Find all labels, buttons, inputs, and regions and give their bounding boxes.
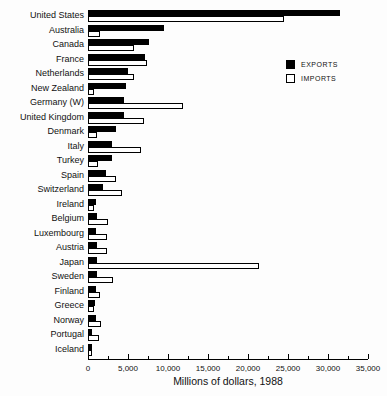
bar-row: Belgium [0, 213, 387, 228]
bar-row: Spain [0, 170, 387, 185]
x-axis-major-tick [208, 354, 209, 359]
imports-bar [88, 118, 144, 124]
category-label: Italy [0, 140, 84, 152]
imports-bar [88, 219, 108, 225]
category-label: Germany (W) [0, 96, 84, 108]
bar-row: Sweden [0, 271, 387, 286]
category-label: Denmark [0, 125, 84, 137]
x-axis-tick-label: 15,000 [188, 364, 228, 373]
imports-bar [88, 176, 116, 182]
x-axis-major-tick [368, 354, 369, 359]
category-label: Switzerland [0, 183, 84, 195]
bar-row: Denmark [0, 126, 387, 141]
legend-label-imports: IMPORTS [301, 75, 336, 83]
category-label: Japan [0, 256, 84, 268]
x-axis-minor-tick [108, 356, 109, 359]
x-axis-tick-label: 35,000 [348, 364, 387, 373]
bar-chart: United StatesAustraliaCanadaFranceNether… [0, 0, 387, 396]
imports-bar [88, 292, 100, 298]
category-label: Netherlands [0, 67, 84, 79]
category-label: Sweden [0, 270, 84, 282]
legend-label-exports: EXPORTS [301, 61, 338, 69]
imports-bar [88, 103, 183, 109]
x-axis-major-tick [128, 354, 129, 359]
imports-bar [88, 161, 98, 167]
imports-bar [88, 277, 113, 283]
imports-bar [88, 16, 284, 22]
x-axis-minor-tick [348, 356, 349, 359]
x-axis-tick-label: 10,000 [148, 364, 188, 373]
category-label: Canada [0, 38, 84, 50]
imports-bar [88, 147, 141, 153]
x-axis-major-tick [288, 354, 289, 359]
imports-bar [88, 132, 97, 138]
x-axis-tick-label: 25,000 [268, 364, 308, 373]
bar-row: Greece [0, 300, 387, 315]
bar-row: Finland [0, 286, 387, 301]
imports-bar [88, 74, 134, 80]
bar-row: Australia [0, 25, 387, 40]
imports-bar [88, 248, 107, 254]
x-axis-line [88, 359, 368, 360]
x-axis-tick-label: 5,000 [108, 364, 148, 373]
imports-bar [88, 190, 122, 196]
x-axis-minor-tick [268, 356, 269, 359]
bar-row: Luxembourg [0, 228, 387, 243]
category-label: Portugal [0, 328, 84, 340]
bar-row: Turkey [0, 155, 387, 170]
x-axis-tick-label: 30,000 [308, 364, 348, 373]
bar-row: Germany (W) [0, 97, 387, 112]
x-axis-major-tick [248, 354, 249, 359]
x-axis-minor-tick [148, 356, 149, 359]
imports-bar [88, 263, 259, 269]
bar-row: United States [0, 10, 387, 25]
imports-bar [88, 321, 101, 327]
imports-bar [88, 89, 94, 95]
category-label: Luxembourg [0, 227, 84, 239]
imports-bar [88, 234, 107, 240]
x-axis-minor-tick [228, 356, 229, 359]
x-axis-major-tick [168, 354, 169, 359]
legend-item-imports: IMPORTS [286, 74, 338, 83]
legend: EXPORTS IMPORTS [286, 60, 338, 88]
category-label: United States [0, 9, 84, 21]
category-label: Belgium [0, 212, 84, 224]
category-label: Turkey [0, 154, 84, 166]
category-label: Australia [0, 24, 84, 36]
imports-bar [88, 335, 99, 341]
imports-bar [88, 31, 100, 37]
bar-row: Italy [0, 141, 387, 156]
category-label: Ireland [0, 198, 84, 210]
imports-bar [88, 45, 134, 51]
category-label: United Kingdom [0, 111, 84, 123]
category-label: Norway [0, 314, 84, 326]
category-label: France [0, 53, 84, 65]
category-label: New Zealand [0, 82, 84, 94]
category-label: Austria [0, 241, 84, 253]
imports-bar [88, 205, 94, 211]
x-axis-major-tick [328, 354, 329, 359]
category-label: Spain [0, 169, 84, 181]
x-axis-minor-tick [188, 356, 189, 359]
x-axis-title: Millions of dollars, 1988 [88, 375, 368, 387]
category-label: Iceland [0, 343, 84, 355]
bar-row: Ireland [0, 199, 387, 214]
category-label: Greece [0, 299, 84, 311]
bar-row: Canada [0, 39, 387, 54]
legend-item-exports: EXPORTS [286, 60, 338, 69]
bar-row: Austria [0, 242, 387, 257]
bar-row: Norway [0, 315, 387, 330]
category-label: Finland [0, 285, 84, 297]
x-axis-major-tick [88, 354, 89, 359]
imports-bar [88, 60, 147, 66]
bar-row: Switzerland [0, 184, 387, 199]
imports-bar [88, 306, 94, 312]
bar-row: Japan [0, 257, 387, 272]
x-axis-tick-label: 0 [68, 364, 108, 373]
imports-swatch-icon [286, 74, 295, 83]
bar-row: United Kingdom [0, 112, 387, 127]
bar-row: Portugal [0, 329, 387, 344]
x-axis-tick-label: 20,000 [228, 364, 268, 373]
exports-swatch-icon [286, 60, 295, 69]
x-axis-minor-tick [308, 356, 309, 359]
